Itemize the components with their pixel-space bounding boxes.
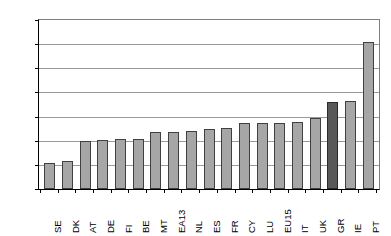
x-axis-label-pt: PT	[371, 221, 380, 233]
x-tick-mark	[164, 189, 165, 193]
x-axis-label-mt: MT	[159, 219, 168, 233]
x-tick-mark	[341, 189, 342, 193]
bar-slot	[59, 20, 77, 189]
x-axis-label-gr: GR	[336, 219, 345, 233]
bar-fi[interactable]	[115, 139, 126, 189]
x-axis-label-dk: DK	[71, 220, 80, 233]
x-tick-mark	[181, 189, 182, 193]
bar-slot	[289, 20, 307, 189]
x-axis-label-es: ES	[212, 220, 221, 233]
bar-slot	[306, 20, 324, 189]
bar-cy[interactable]	[239, 123, 250, 189]
x-axis: SEDKATDEFIBEMTEA13NLESFRCYLUEU15ITUKGRIE…	[38, 189, 380, 236]
x-axis-label-fr: FR	[230, 220, 239, 233]
bar-slot	[129, 20, 147, 189]
bar-fr[interactable]	[221, 128, 232, 189]
x-axis-label-at: AT	[88, 222, 97, 233]
x-tick-mark	[40, 189, 41, 193]
x-axis-label-lu: LU	[265, 221, 274, 233]
bar-slot	[342, 20, 360, 189]
x-tick-mark	[128, 189, 129, 193]
bar-dk[interactable]	[62, 161, 73, 189]
bar-es[interactable]	[204, 129, 215, 189]
x-tick-mark	[323, 189, 324, 193]
x-tick-mark	[93, 189, 94, 193]
bar-ie[interactable]	[345, 101, 356, 189]
x-tick-mark	[58, 189, 59, 193]
bar-nl[interactable]	[186, 131, 197, 189]
bar-at[interactable]	[80, 141, 91, 189]
x-tick-mark	[358, 189, 359, 193]
x-axis-label-cy: CY	[247, 220, 256, 233]
x-axis-label-nl: NL	[194, 221, 203, 233]
x-axis-label-ie: IE	[353, 224, 362, 233]
x-axis-label-de: DE	[106, 220, 115, 233]
x-tick-mark	[235, 189, 236, 193]
x-axis-label-se: SE	[53, 220, 62, 233]
bar-se[interactable]	[44, 163, 55, 189]
bar-pt[interactable]	[363, 42, 374, 189]
bar-chart: 00.050.10.150.20.250.30.35 SEDKATDEFIBEM…	[0, 0, 391, 236]
x-tick-mark	[376, 189, 377, 193]
x-axis-label-be: BE	[141, 220, 150, 233]
x-tick-mark	[75, 189, 76, 193]
bar-slot	[253, 20, 271, 189]
x-tick-mark	[146, 189, 147, 193]
bar-series	[39, 20, 379, 189]
bar-slot	[359, 20, 377, 189]
x-tick-mark	[199, 189, 200, 193]
bar-slot	[147, 20, 165, 189]
x-tick-mark	[288, 189, 289, 193]
plot-area	[38, 19, 380, 190]
x-axis-label-ea13: EA13	[177, 210, 186, 233]
bar-slot	[112, 20, 130, 189]
x-tick-mark	[305, 189, 306, 193]
bar-uk[interactable]	[310, 118, 321, 189]
bar-lu[interactable]	[257, 123, 268, 189]
bar-eu15[interactable]	[274, 123, 285, 189]
x-axis-label-uk: UK	[318, 220, 327, 233]
x-tick-mark	[252, 189, 253, 193]
bar-ea13[interactable]	[168, 132, 179, 189]
x-axis-label-it: IT	[300, 225, 309, 233]
bar-de[interactable]	[97, 140, 108, 189]
bar-slot	[94, 20, 112, 189]
bar-slot	[324, 20, 342, 189]
bar-slot	[271, 20, 289, 189]
bar-slot	[236, 20, 254, 189]
bar-slot	[165, 20, 183, 189]
bar-slot	[76, 20, 94, 189]
x-tick-mark	[111, 189, 112, 193]
bar-mt[interactable]	[150, 132, 161, 189]
bar-slot	[41, 20, 59, 189]
bar-be[interactable]	[133, 139, 144, 189]
x-axis-label-eu15: EU15	[283, 209, 292, 233]
bar-slot	[218, 20, 236, 189]
x-tick-mark	[217, 189, 218, 193]
bar-slot	[183, 20, 201, 189]
x-tick-mark	[270, 189, 271, 193]
bar-gr[interactable]	[327, 102, 338, 189]
bar-slot	[200, 20, 218, 189]
x-axis-label-fi: FI	[124, 225, 133, 233]
bar-it[interactable]	[292, 122, 303, 189]
